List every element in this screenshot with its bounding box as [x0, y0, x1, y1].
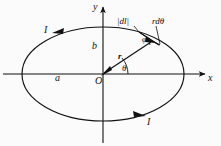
current-arrowhead-upper-left — [52, 28, 64, 34]
physics-diagram-ellipse-current-loop: y x O a b r θ φ |dl| rdθ I I — [0, 0, 221, 146]
current-arrowhead-lower-right — [133, 111, 146, 117]
dl-element-label: |dl| — [117, 17, 129, 26]
semi-major-axis-label: a — [55, 73, 60, 83]
origin-label: O — [95, 76, 102, 86]
x-axis-label: x — [208, 73, 212, 83]
current-label-upper-left: I — [44, 25, 47, 35]
semi-minor-axis-label: b — [92, 41, 97, 51]
diagram-canvas — [0, 0, 221, 146]
y-axis-label: y — [93, 2, 97, 12]
current-label-lower-right: I — [147, 117, 150, 127]
rdtheta-element-label: rdθ — [152, 17, 164, 26]
theta-angle-label: θ — [122, 64, 126, 73]
radius-vector-label: r — [118, 52, 122, 61]
rdtheta-leader-line — [156, 26, 160, 44]
phi-angle-label: φ — [142, 36, 146, 44]
